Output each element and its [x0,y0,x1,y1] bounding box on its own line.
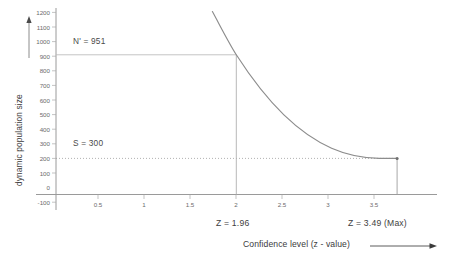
chart-figure: dynamic population size 1200 1100 1000 9… [0,0,463,263]
max-point-marker [396,157,399,160]
annotation-n-prime: N' = 951 [73,37,105,45]
x-axis-title: Confidence level (z - value) [243,240,350,249]
y-tick-marks [52,12,56,202]
annotation-z-lower: Z = 1.96 [216,219,249,228]
annotation-s-value: S = 300 [73,139,103,147]
annotation-z-max: Z = 3.49 (Max) [348,219,407,228]
x-tick-marks [98,195,374,200]
decay-curve [212,12,397,159]
x-axis-title-arrow [370,243,437,249]
